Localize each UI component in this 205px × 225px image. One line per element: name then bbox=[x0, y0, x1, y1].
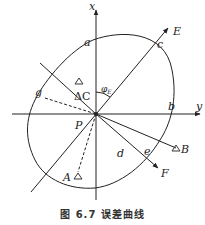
origin-point bbox=[94, 112, 98, 116]
ray-E bbox=[31, 28, 168, 192]
station-A-label: A bbox=[62, 171, 71, 184]
point-b-label: b bbox=[168, 100, 175, 113]
x-axis-label: x bbox=[89, 0, 96, 13]
station-A-marker bbox=[74, 173, 82, 179]
point-a-label: a bbox=[84, 36, 91, 49]
error-curve bbox=[28, 34, 175, 188]
y-axis-label: y bbox=[195, 100, 203, 113]
origin-label: P bbox=[74, 119, 83, 132]
point-d-label: d bbox=[117, 147, 124, 160]
error-curve-diagram: x y E F P a c b g d e ΔC A B φE bbox=[0, 0, 205, 225]
point-e-label: e bbox=[144, 145, 151, 158]
point-g-label: g bbox=[35, 86, 42, 99]
point-c-label: c bbox=[157, 38, 163, 51]
angle-label: φE bbox=[101, 84, 112, 95]
perpendicular-line bbox=[40, 63, 96, 114]
ray-E-label: E bbox=[172, 25, 181, 38]
station-B-label: B bbox=[180, 143, 189, 156]
station-C-label: ΔC bbox=[74, 90, 90, 103]
ray-F bbox=[96, 114, 158, 168]
station-C-marker bbox=[75, 78, 83, 84]
line-B bbox=[96, 114, 176, 148]
ray-F-label: F bbox=[160, 167, 169, 180]
figure-caption: 图 6.7 误差曲线 bbox=[0, 206, 205, 221]
